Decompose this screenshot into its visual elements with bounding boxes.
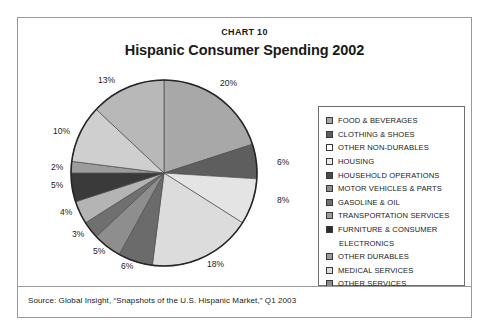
legend-swatch-icon (326, 185, 333, 192)
legend-swatch-icon (326, 267, 333, 274)
pie-percent-label: 18% (207, 259, 224, 269)
legend-item[interactable]: OTHER NON-DURABLES (326, 141, 464, 155)
legend-item-label: OTHER SERVICES (338, 279, 406, 288)
legend-item-label: OTHER DURABLES (338, 252, 409, 261)
legend-item-label: FOOD & BEVERAGES (338, 116, 418, 125)
legend-item-label: HOUSING (338, 157, 374, 166)
pie-chart: 20%6%8%18%6%5%3%4%5%2%10%13% (24, 70, 304, 275)
legend-swatch-icon (326, 131, 333, 138)
legend-swatch-icon (326, 199, 333, 206)
pie-percent-label: 5% (93, 246, 105, 256)
legend-item[interactable]: GASOLINE & OIL (326, 196, 464, 210)
pie-percent-label: 20% (220, 78, 237, 88)
legend-swatch-icon (326, 253, 333, 260)
legend-swatch-icon (326, 172, 333, 179)
legend-item[interactable]: FOOD & BEVERAGES (326, 114, 464, 128)
legend-swatch-icon (326, 158, 333, 165)
pie-chart-svg (24, 70, 304, 275)
pie-percent-label: 13% (98, 75, 115, 85)
legend-item-label: OTHER NON-DURABLES (338, 143, 429, 152)
legend-item[interactable]: HOUSEHOLD OPERATIONS (326, 168, 464, 182)
pie-percent-label: 8% (277, 195, 289, 205)
source-note: Source: Global Insight, “Snapshots of th… (28, 296, 296, 305)
legend-item-label: FURNITURE & CONSUMER (338, 225, 437, 234)
legend-item[interactable]: OTHER DURABLES (326, 250, 464, 264)
pie-percent-label: 10% (53, 126, 70, 136)
legend-item[interactable]: TRANSPORTATION SERVICES (326, 209, 464, 223)
pie-percent-label: 6% (121, 261, 133, 271)
legend-item-label: HOUSEHOLD OPERATIONS (338, 171, 439, 180)
pie-slices (71, 80, 257, 266)
legend-item[interactable]: MEDICAL SERVICES (326, 264, 464, 278)
source-divider (18, 286, 471, 287)
pie-percent-label: 6% (277, 157, 289, 167)
legend-item-label: MEDICAL SERVICES (338, 266, 413, 275)
legend-item-label: MOTOR VEHICLES & PARTS (338, 184, 442, 193)
pie-percent-label: 4% (60, 207, 72, 217)
legend-swatch-icon (326, 212, 333, 219)
legend: FOOD & BEVERAGESCLOTHING & SHOESOTHER NO… (318, 106, 465, 286)
legend-item[interactable]: FURNITURE & CONSUMER (326, 223, 464, 237)
pie-percent-label: 3% (72, 229, 84, 239)
legend-item[interactable]: OTHER SERVICES (326, 277, 464, 291)
legend-swatch-icon (326, 226, 333, 233)
legend-item-label: GASOLINE & OIL (338, 198, 400, 207)
legend-item-label: ELECTRONICS (339, 239, 394, 248)
pie-percent-label: 2% (51, 162, 63, 172)
page-title: Hispanic Consumer Spending 2002 (18, 42, 471, 58)
chart-number: CHART 10 (18, 27, 471, 37)
legend-swatch-icon (326, 117, 333, 124)
pie-percent-label: 5% (51, 180, 63, 190)
legend-swatch-icon (326, 144, 333, 151)
legend-item-label: TRANSPORTATION SERVICES (338, 211, 449, 220)
chart-frame: CHART 10 Hispanic Consumer Spending 2002… (17, 17, 472, 318)
legend-item[interactable]: CLOTHING & SHOES (326, 128, 464, 142)
legend-item-label: CLOTHING & SHOES (338, 130, 415, 139)
legend-item[interactable]: HOUSING (326, 155, 464, 169)
legend-item-label-continued: ELECTRONICS (326, 236, 464, 250)
legend-item[interactable]: MOTOR VEHICLES & PARTS (326, 182, 464, 196)
